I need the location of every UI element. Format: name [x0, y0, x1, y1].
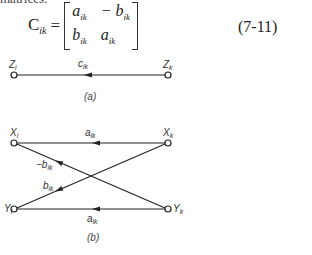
label-yi: Yi [4, 203, 13, 215]
label-c-ik: cik [78, 58, 89, 70]
node-xk [165, 140, 171, 146]
node-yk [165, 206, 171, 212]
figure-b: Xi Xk Yi Yk aik aik −bik bik (b) [4, 127, 184, 243]
figure-a: Zi Zk cik (a) [8, 58, 173, 102]
node-zi [11, 72, 17, 78]
label-neg-b-ik: −bik [36, 159, 53, 171]
label-zk: Zk [162, 59, 173, 71]
caption-a: (a) [84, 91, 96, 102]
arrow-left-icon [92, 207, 100, 212]
label-zi: Zi [8, 59, 17, 71]
label-xi: Xi [9, 127, 19, 139]
signal-flow-diagrams: Zi Zk cik (a) Xi Xk Yi Yk aik aik −bik b… [0, 0, 312, 255]
arrow-left-icon [92, 141, 100, 146]
label-yk: Yk [173, 203, 184, 215]
arrow-icon [54, 186, 63, 194]
node-zk [165, 72, 171, 78]
arrow-left-icon [84, 73, 92, 78]
label-top-a-ik: aik [85, 127, 96, 139]
label-bottom-a-ik: aik [87, 213, 98, 225]
caption-b: (b) [87, 232, 99, 243]
label-b-ik: bik [43, 180, 54, 192]
arrow-icon [54, 158, 63, 166]
node-xi [11, 140, 17, 146]
label-xk: Xk [162, 127, 174, 139]
